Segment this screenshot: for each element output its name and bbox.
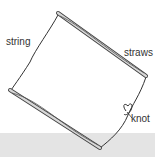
label-string: string — [6, 37, 30, 47]
bottom-straws — [10, 90, 100, 148]
label-knot: knot — [131, 114, 150, 124]
string-left — [10, 15, 58, 92]
straw-frame-diagram — [0, 0, 155, 157]
top-straws — [58, 13, 146, 76]
label-straws: straws — [124, 48, 153, 58]
